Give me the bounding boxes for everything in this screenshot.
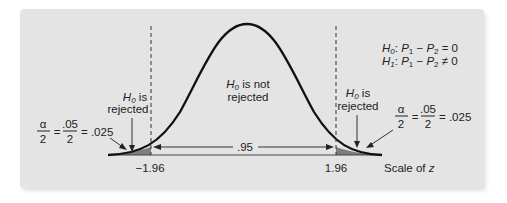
svg-text:α: α: [40, 118, 47, 130]
right-reject-pointer-head: [354, 141, 360, 148]
null-hypothesis: H0: P1 − P2 = 0: [382, 42, 458, 56]
center-area-label: .95: [237, 141, 253, 153]
svg-text:=: =: [412, 111, 419, 123]
center-accept-line2: rejected: [228, 91, 269, 103]
svg-text:.05: .05: [420, 103, 436, 115]
axis-label: Scale of z: [384, 162, 435, 174]
svg-text:2: 2: [40, 133, 46, 145]
left-reject-line2: rejected: [108, 103, 149, 115]
svg-text:2: 2: [425, 118, 431, 130]
svg-text:2: 2: [67, 133, 73, 145]
right-reject-line1: H0 is: [346, 87, 371, 101]
right-tail-area-formula: α 2 = .05 2 = .025: [395, 103, 471, 130]
svg-text:=: =: [54, 126, 61, 138]
normal-curve-diagram: .95 H0 is rejected α 2 = .05 2 = .025 H0…: [0, 0, 507, 203]
center-accept-line1: H0 is not: [226, 78, 270, 92]
right-reject-line2: rejected: [338, 100, 379, 112]
left-critical-value: −1.96: [135, 162, 164, 174]
arrowhead-left: [153, 144, 161, 150]
svg-text:= .025: = .025: [439, 111, 471, 123]
left-tail-pointer-head: [119, 143, 127, 150]
arrowhead-right: [326, 144, 334, 150]
svg-text:.05: .05: [62, 118, 78, 130]
right-critical-value: 1.96: [325, 162, 347, 174]
svg-text:= .025: = .025: [81, 126, 113, 138]
right-tail-pointer: [369, 130, 393, 146]
svg-text:2: 2: [398, 118, 404, 130]
left-tail-area-formula: α 2 = .05 2 = .025: [37, 118, 113, 145]
svg-text:α: α: [398, 103, 405, 115]
alternative-hypothesis: H1: P1 − P2 ≠ 0: [382, 55, 458, 69]
